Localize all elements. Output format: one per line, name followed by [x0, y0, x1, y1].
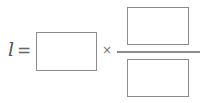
equals-sign: =: [17, 41, 31, 59]
denominator-input-box[interactable]: [127, 59, 189, 97]
factor-input-box[interactable]: [36, 32, 97, 71]
fraction-bar: [117, 51, 200, 53]
variable-label: l: [8, 39, 14, 59]
multiply-sign: ×: [102, 43, 112, 57]
numerator-input-box[interactable]: [127, 7, 189, 45]
